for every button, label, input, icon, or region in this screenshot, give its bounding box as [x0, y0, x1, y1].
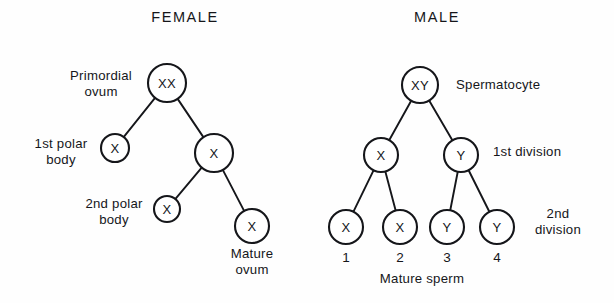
- edge-m-spermatocyte-to-m-div1-x: [389, 100, 411, 140]
- node-f-ovum: XX: [148, 64, 186, 102]
- node-label-f-polar1: X: [111, 141, 120, 156]
- label-line-primordial-ovum-0: Primordial: [70, 68, 132, 83]
- node-f-mature-ovum: X: [235, 209, 269, 243]
- label-primordial-ovum: Primordialovum: [70, 68, 132, 99]
- edge-f-ovum-to-f-secondary: [177, 98, 203, 137]
- meiosis-diagram-svg: XXXXXXXYXYXXYY Primordialovum1st polarbo…: [0, 0, 614, 303]
- node-m-div1-y: Y: [444, 138, 478, 172]
- label-line-first-polar-body-0: 1st polar: [35, 136, 88, 151]
- node-label-f-polar2: X: [163, 202, 172, 217]
- label-line-primordial-ovum-1: ovum: [84, 84, 117, 99]
- headings-layer: FEMALEMALE: [151, 9, 460, 25]
- sperm-number-3: 3: [443, 250, 451, 265]
- sperm-number-1: 1: [342, 250, 350, 265]
- label-line-mature-sperm-0: Mature sperm: [380, 271, 464, 286]
- node-f-secondary: X: [195, 134, 233, 172]
- label-line-first-division-0: 1st division: [493, 144, 561, 159]
- node-label-m-div1-y: Y: [457, 148, 466, 163]
- node-m-sperm-1: X: [329, 210, 363, 244]
- label-spermatocyte: Spermatocyte: [456, 77, 540, 92]
- label-line-first-polar-body-1: body: [46, 152, 76, 167]
- label-second-division: 2nddivision: [535, 206, 581, 237]
- node-label-m-div1-x: X: [377, 148, 386, 163]
- edge-m-div1-y-to-m-sperm-3: [450, 171, 458, 211]
- panel-heading-female: FEMALE: [151, 9, 219, 25]
- label-line-spermatocyte-0: Spermatocyte: [456, 77, 540, 92]
- edges-layer: [123, 97, 489, 212]
- edge-m-div1-x-to-m-sperm-2: [385, 171, 396, 211]
- label-first-polar-body: 1st polarbody: [35, 136, 88, 167]
- edge-f-secondary-to-f-mature-ovum: [223, 169, 245, 211]
- labels-layer: Primordialovum1st polarbody2nd polarbody…: [35, 68, 581, 286]
- node-label-f-mature-ovum: X: [248, 219, 257, 234]
- node-label-m-spermatocyte: XY: [411, 78, 429, 93]
- sperm-number-2: 2: [396, 250, 404, 265]
- node-label-m-sperm-1: X: [342, 220, 351, 235]
- node-m-sperm-2: X: [383, 210, 417, 244]
- edge-m-div1-y-to-m-sperm-4: [468, 170, 489, 212]
- node-f-polar1: X: [101, 134, 129, 162]
- label-second-polar-body: 2nd polarbody: [85, 196, 143, 227]
- node-label-m-sperm-4: Y: [493, 220, 502, 235]
- label-line-mature-ovum-0: Mature: [231, 246, 274, 261]
- node-label-m-sperm-2: X: [396, 220, 405, 235]
- meiosis-diagram-canvas: XXXXXXXYXYXXYY Primordialovum1st polarbo…: [0, 0, 614, 303]
- edge-f-secondary-to-f-polar2: [175, 167, 202, 199]
- label-line-second-polar-body-1: body: [99, 212, 129, 227]
- panel-heading-male: MALE: [414, 9, 460, 25]
- label-line-second-division-0: 2nd: [547, 206, 570, 221]
- node-label-f-ovum: XX: [158, 76, 176, 91]
- label-mature-ovum: Matureovum: [231, 246, 274, 277]
- node-f-polar2: X: [154, 196, 180, 222]
- node-m-div1-x: X: [364, 138, 398, 172]
- label-line-mature-ovum-1: ovum: [235, 262, 268, 277]
- edge-f-ovum-to-f-polar1: [123, 97, 155, 137]
- edge-m-spermatocyte-to-m-div1-y: [429, 100, 453, 141]
- sperm-number-4: 4: [493, 250, 501, 265]
- nodes-layer: XXXXXXXYXYXXYY: [101, 64, 514, 244]
- node-label-m-sperm-3: Y: [443, 220, 452, 235]
- node-m-spermatocyte: XY: [402, 67, 438, 103]
- node-m-sperm-4: Y: [480, 210, 514, 244]
- label-first-division: 1st division: [493, 144, 561, 159]
- node-label-f-secondary: X: [210, 146, 219, 161]
- label-line-second-polar-body-0: 2nd polar: [85, 196, 143, 211]
- edge-m-div1-x-to-m-sperm-1: [353, 170, 374, 212]
- node-m-sperm-3: Y: [430, 210, 464, 244]
- label-mature-sperm: Mature sperm: [380, 271, 464, 286]
- label-line-second-division-1: division: [535, 222, 581, 237]
